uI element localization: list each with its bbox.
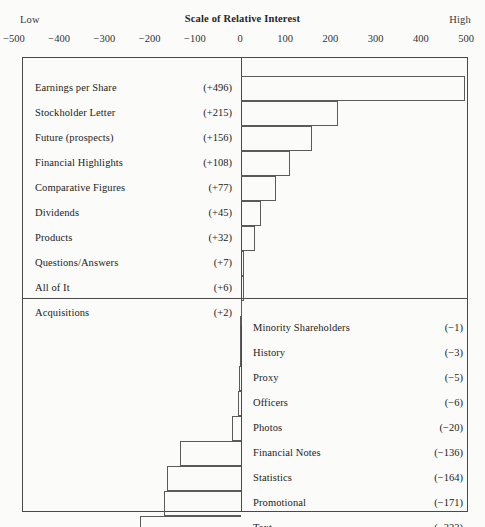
chart-row: Statistics(−164) [0,465,485,490]
chart-row: History(−3) [0,340,485,365]
row-category-label: Products [35,225,73,250]
chart-row: Products(+32) [0,225,485,250]
row-category-label: Minority Shareholders [253,315,350,340]
row-category-label: All of It [35,275,70,300]
chart-row: Financial Notes(−136) [0,440,485,465]
chart-row: Minority Shareholders(−1) [0,315,485,340]
axis-tick-label: −400 [48,33,70,44]
row-category-label: Questions/Answers [35,250,118,275]
row-value-label: (+45) [172,200,232,225]
axis-high-label: High [449,14,471,25]
chart-row: Photos(−20) [0,415,485,440]
chart-row: Comparative Figures(+77) [0,175,485,200]
row-value-label: (−6) [403,390,463,415]
row-category-label: Photos [253,415,282,440]
axis-tick-label: 100 [277,33,293,44]
row-value-label: (+6) [172,275,232,300]
chart-figure: Low Scale of Relative Interest High −500… [0,0,485,527]
axis-tick-label: −100 [184,33,206,44]
axis-tick-label: 400 [413,33,429,44]
row-category-label: History [253,340,285,365]
row-value-label: (+496) [172,75,232,100]
row-value-label: (+7) [172,250,232,275]
row-value-label: (−1) [403,315,463,340]
row-category-label: Future (prospects) [35,125,114,150]
row-value-label: (−20) [403,415,463,440]
chart-row: Promotional(−171) [0,490,485,515]
axis-tick-label: 300 [368,33,384,44]
row-category-label: Statistics [253,465,292,490]
axis-tick-label: 0 [237,33,242,44]
axis-tick-label: 500 [458,33,474,44]
chart-row: Officers(−6) [0,390,485,415]
row-category-label: Financial Highlights [35,150,123,175]
row-value-label: (−5) [403,365,463,390]
row-category-label: Earnings per Share [35,75,117,100]
row-value-label: (−136) [403,440,463,465]
row-value-label: (−223) [403,515,463,527]
row-category-label: Stockholder Letter [35,100,115,125]
row-value-label: (+156) [172,125,232,150]
row-value-label: (−3) [403,340,463,365]
chart-row: Proxy(−5) [0,365,485,390]
chart-row: Text(−223) [0,515,485,527]
row-category-label: Officers [253,390,288,415]
row-category-label: Text [253,515,272,527]
row-category-label: Financial Notes [253,440,321,465]
row-category-label: Promotional [253,490,306,515]
row-category-label: Proxy [253,365,279,390]
chart-row: Questions/Answers(+7) [0,250,485,275]
row-value-label: (+108) [172,150,232,175]
row-category-label: Comparative Figures [35,175,125,200]
axis-tick-label: −500 [3,33,25,44]
axis-tick-label: −200 [139,33,161,44]
row-value-label: (+32) [172,225,232,250]
chart-row: Future (prospects)(+156) [0,125,485,150]
chart-row: Earnings per Share(+496) [0,75,485,100]
chart-row: Financial Highlights(+108) [0,150,485,175]
row-value-label: (−171) [403,490,463,515]
row-category-label: Dividends [35,200,79,225]
row-value-label: (−164) [403,465,463,490]
chart-row: Stockholder Letter(+215) [0,100,485,125]
row-value-label: (+77) [172,175,232,200]
chart-row: All of It(+6) [0,275,485,300]
chart-row: Dividends(+45) [0,200,485,225]
axis-tick-row: −500−400−300−200−1000100200300400500 [0,33,485,49]
axis-tick-label: −300 [94,33,116,44]
chart-title: Scale of Relative Interest [0,13,485,24]
axis-tick-label: 200 [323,33,339,44]
row-value-label: (+215) [172,100,232,125]
